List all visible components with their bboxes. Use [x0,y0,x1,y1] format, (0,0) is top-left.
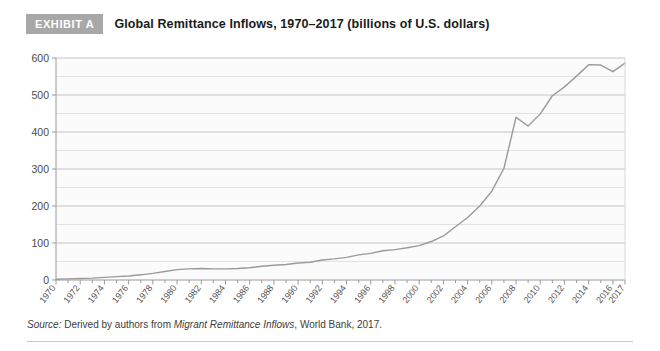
chart-plot-area: 0100200300400500600 19701972197419761978… [0,44,660,309]
svg-text:2012: 2012 [546,283,566,305]
svg-text:1990: 1990 [279,283,299,305]
svg-text:2008: 2008 [497,283,517,305]
svg-text:1998: 1998 [376,283,396,305]
svg-text:1988: 1988 [255,283,275,305]
svg-text:1972: 1972 [62,283,82,305]
svg-text:1970: 1970 [37,283,57,305]
svg-text:400: 400 [31,126,49,138]
figure-header: EXHIBIT A Global Remittance Inflows, 197… [26,13,490,35]
svg-text:600: 600 [31,52,49,64]
svg-text:1974: 1974 [86,283,106,305]
svg-text:2006: 2006 [473,283,493,305]
source-work-title: Migrant Remittance Inflows [174,319,295,330]
x-axis-labels: 1970197219741976197819801982198419861988… [37,283,626,305]
figure-title: Global Remittance Inflows, 1970–2017 (bi… [114,17,489,31]
svg-text:1978: 1978 [134,283,154,305]
exhibit-figure: EXHIBIT A Global Remittance Inflows, 197… [0,0,660,351]
svg-text:1996: 1996 [352,283,372,305]
svg-text:1982: 1982 [183,283,203,305]
svg-text:2010: 2010 [522,283,542,305]
svg-text:1976: 1976 [110,283,130,305]
remittance-line-chart: 0100200300400500600 19701972197419761978… [0,44,660,309]
source-label: Source: [27,319,61,330]
svg-text:300: 300 [31,163,49,175]
svg-text:100: 100 [31,237,49,249]
svg-text:1984: 1984 [207,283,227,305]
svg-text:1986: 1986 [231,283,251,305]
svg-text:2000: 2000 [401,283,421,305]
svg-text:2002: 2002 [425,283,445,305]
source-text-after: , World Bank, 2017. [294,319,382,330]
bottom-rule [27,341,633,342]
svg-text:1994: 1994 [328,283,348,305]
svg-text:1992: 1992 [304,283,324,305]
y-axis-labels: 0100200300400500600 [31,52,56,286]
source-text-before: Derived by authors from [61,319,173,330]
exhibit-badge: EXHIBIT A [26,14,103,34]
svg-text:2004: 2004 [449,283,469,305]
svg-text:2014: 2014 [570,283,590,305]
svg-text:1980: 1980 [158,283,178,305]
source-note: Source: Derived by authors from Migrant … [27,319,382,330]
svg-text:200: 200 [31,200,49,212]
svg-text:500: 500 [31,89,49,101]
